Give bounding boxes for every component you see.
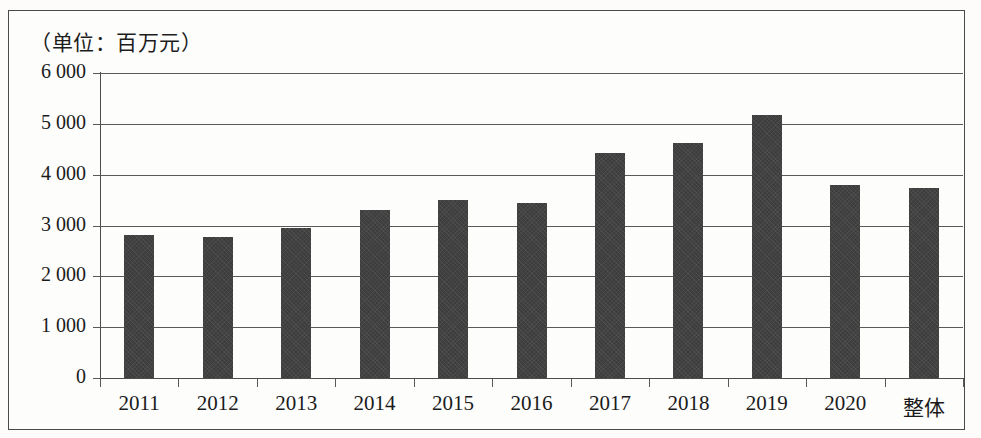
y-axis-line [100, 72, 101, 379]
x-axis-tick [571, 379, 572, 387]
x-axis-label-整体: 整体 [879, 391, 969, 421]
x-axis-label-2017: 2017 [565, 391, 655, 416]
bar-2016 [517, 203, 547, 378]
bar-2018 [673, 143, 703, 378]
x-axis-tick [649, 379, 650, 387]
bar-2014 [360, 210, 390, 378]
x-axis-tick [728, 379, 729, 387]
x-axis-label-2018: 2018 [643, 391, 733, 416]
y-axis-tick [93, 124, 100, 125]
x-axis-label-2016: 2016 [487, 391, 577, 416]
bar-2020 [830, 185, 860, 378]
x-axis-line [100, 378, 964, 379]
x-axis-label-2014: 2014 [330, 391, 420, 416]
bar-2013 [281, 228, 311, 378]
x-axis-tick [963, 379, 964, 387]
bar-2012 [203, 237, 233, 378]
x-axis-label-2020: 2020 [800, 391, 890, 416]
chart-figure: （单位：百万元） 01 0002 0003 0004 0005 0006 000… [0, 0, 981, 438]
x-axis-tick [806, 379, 807, 387]
bar-2019 [752, 115, 782, 378]
x-axis-tick [885, 379, 886, 387]
x-axis-origin-tick [100, 379, 101, 387]
x-axis-label-2015: 2015 [408, 391, 498, 416]
x-axis-tick [335, 379, 336, 387]
y-axis-tick-label: 6 000 [20, 60, 86, 83]
y-axis-tick-label: 3 000 [20, 213, 86, 236]
y-axis-tick [93, 276, 100, 277]
x-axis-tick [257, 379, 258, 387]
x-axis-label-2019: 2019 [722, 391, 812, 416]
bar-2015 [438, 200, 468, 378]
gridline [100, 73, 963, 74]
y-axis-tick [93, 226, 100, 227]
bar-2017 [595, 153, 625, 378]
x-axis-label-2012: 2012 [173, 391, 263, 416]
y-axis-tick [93, 73, 100, 74]
y-axis-tick-label: 5 000 [20, 111, 86, 134]
bar-2011 [124, 235, 154, 378]
y-axis-tick [93, 378, 100, 379]
x-axis-label-2011: 2011 [94, 391, 184, 416]
y-axis-tick [93, 175, 100, 176]
unit-caption: （单位：百万元） [30, 26, 202, 56]
x-axis-label-2013: 2013 [251, 391, 341, 416]
y-axis-tick [93, 327, 100, 328]
plot-area [100, 73, 963, 378]
x-axis-tick [492, 379, 493, 387]
x-axis-tick [414, 379, 415, 387]
y-axis-tick-label: 1 000 [20, 314, 86, 337]
y-axis-tick-label: 0 [20, 365, 86, 388]
y-axis-tick-label: 4 000 [20, 162, 86, 185]
gridline [100, 124, 963, 125]
y-axis-tick-label: 2 000 [20, 263, 86, 286]
x-axis-tick [178, 379, 179, 387]
bar-整体 [909, 188, 939, 378]
gridline [100, 175, 963, 176]
